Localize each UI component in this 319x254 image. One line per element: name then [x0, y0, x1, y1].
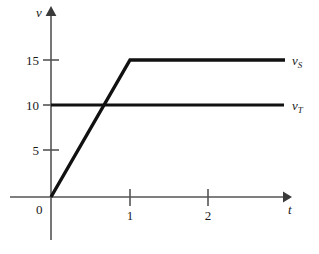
y-tick-label-15: 15: [15, 54, 39, 67]
series-label-vt-base: v: [292, 98, 298, 113]
series-label-vt-sub: T: [298, 105, 303, 115]
y-tick-label-10: 10: [15, 99, 39, 112]
series-line-vs: [51, 60, 285, 197]
y-axis: [46, 6, 57, 240]
series-label-vt: vT: [292, 99, 303, 112]
series-label-vs: vS: [292, 54, 302, 67]
series-label-vs-base: v: [292, 53, 298, 68]
x-tick-label-1: 1: [122, 209, 138, 222]
x-tick-label-2: 2: [200, 209, 216, 222]
series-label-vs-sub: S: [298, 60, 303, 70]
chart-plot-area: [0, 0, 319, 254]
origin-label: 0: [36, 203, 43, 216]
y-axis-label: v: [36, 6, 42, 19]
x-axis-label: t: [288, 203, 292, 216]
chart-figure: v t 15 10 5 0 1 2 vS vT: [0, 0, 319, 254]
y-tick-label-5: 5: [15, 144, 39, 157]
